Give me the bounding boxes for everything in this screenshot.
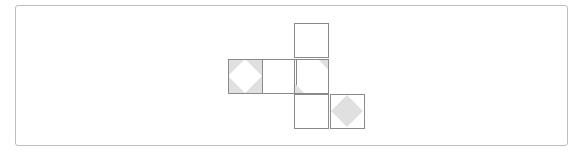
face-bottom-right: [331, 95, 365, 129]
face-row-middle: [263, 60, 297, 94]
corner-triangle-top-right: [318, 59, 328, 69]
face-outline: [295, 24, 329, 58]
cube-net-diagram: [0, 0, 571, 160]
face-outline: [295, 95, 329, 129]
gray-diamond-shape: [331, 95, 363, 127]
face-row-left: [228, 59, 263, 94]
face-outline: [263, 60, 297, 94]
corner-triangle-bottom-left: [294, 83, 304, 93]
face-center: [294, 59, 329, 94]
face-bottom: [295, 95, 329, 129]
face-top: [295, 24, 329, 58]
